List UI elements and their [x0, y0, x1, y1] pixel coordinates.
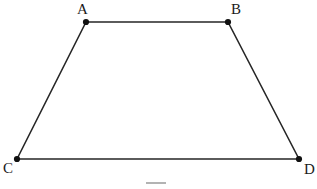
vertex-dot-b [225, 19, 231, 25]
edge-ca [17, 22, 86, 159]
geometry-figure: A B C D [0, 0, 317, 189]
vertex-label-c: C [3, 161, 13, 176]
vertex-label-d: D [304, 162, 315, 177]
vertex-label-a: A [77, 2, 88, 17]
vertex-dot-group [14, 19, 302, 162]
clipped-caption-fragment [146, 182, 166, 184]
edge-group [17, 22, 299, 159]
vertex-dot-d [296, 156, 302, 162]
vertex-dot-a [83, 19, 89, 25]
vertex-dot-c [14, 156, 20, 162]
vertex-label-b: B [231, 2, 241, 17]
edge-bd [228, 22, 299, 159]
trapezoid-drawing [0, 0, 317, 189]
